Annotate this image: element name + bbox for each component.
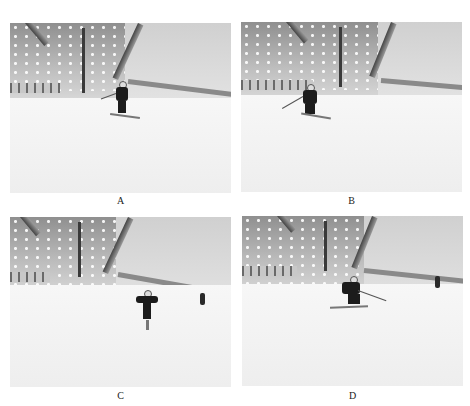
panel-label-c: C — [10, 390, 231, 401]
panel-label-a: A — [10, 195, 231, 206]
photo-panel-c — [10, 217, 231, 387]
bystander — [435, 276, 440, 288]
panel-label-d: D — [242, 390, 463, 401]
ski-lift-tower — [339, 27, 342, 87]
ceiling-lights — [10, 23, 132, 91]
snow-slope — [10, 285, 231, 387]
ski-lift-tower — [82, 28, 85, 93]
side-wall — [125, 23, 231, 108]
photo-panel-d — [242, 216, 463, 386]
panel-label-b: B — [241, 195, 462, 206]
ski-lift-tower — [78, 222, 81, 277]
ski-lift-tower — [324, 221, 327, 271]
snow-slope — [241, 95, 462, 192]
bystander — [200, 293, 205, 305]
fence — [10, 272, 50, 282]
fence — [10, 83, 60, 93]
photo-panel-a — [10, 23, 231, 193]
fence — [242, 266, 297, 276]
photo-panel-b — [241, 22, 462, 192]
fence — [241, 80, 313, 90]
